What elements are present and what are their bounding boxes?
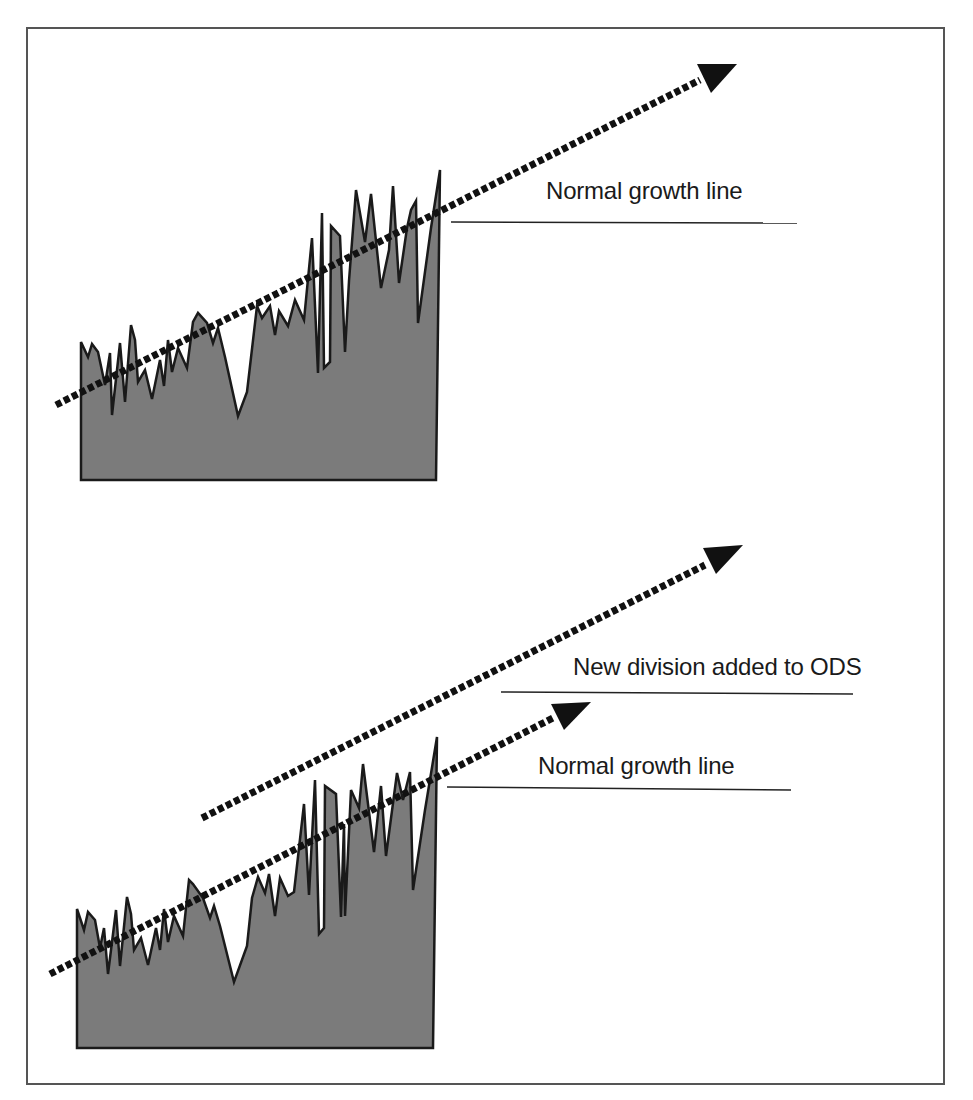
top-normal-growth-label: Normal growth line [546, 177, 742, 205]
bottom-area-chart [77, 737, 437, 1048]
bottom-normal-growth-label: Normal growth line [538, 752, 734, 780]
top-area-chart [81, 170, 440, 480]
growth-diagram [0, 0, 973, 1100]
top-area-fill [81, 170, 440, 480]
bottom-area-fill [77, 737, 437, 1048]
bottom-new-division-label: New division added to ODS [573, 653, 862, 681]
bottom-normal-leader-line [447, 787, 791, 790]
top-leader-line [451, 222, 797, 223]
arrowhead-icon [703, 545, 743, 574]
bottom-new-division-leader-line [501, 692, 853, 694]
arrowhead-icon [551, 702, 591, 730]
arrowhead-icon [697, 64, 737, 93]
